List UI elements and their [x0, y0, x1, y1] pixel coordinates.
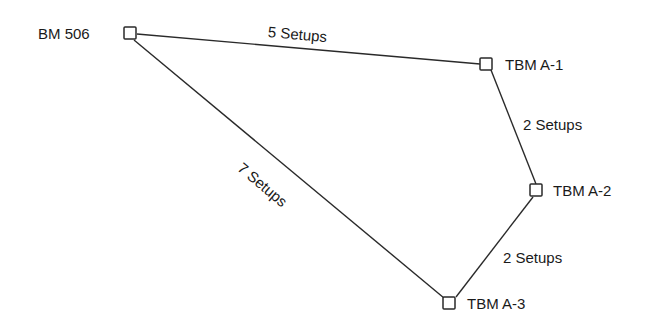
edge-tbma3-bm506 — [134, 40, 444, 298]
node-tbma3-marker — [443, 297, 455, 309]
diagram-canvas — [0, 0, 661, 330]
node-label-bm506: BM 506 — [38, 26, 90, 41]
node-bm506-marker — [124, 27, 136, 39]
node-label-tbma1: TBM A-1 — [505, 57, 563, 72]
edge-label-tbma2-tbma3: 2 Setups — [503, 250, 562, 265]
node-tbma2-marker — [530, 184, 542, 196]
edge-label-tbma1-tbma2: 2 Setups — [523, 117, 582, 132]
node-label-tbma3: TBM A-3 — [467, 296, 525, 311]
node-label-tbma2: TBM A-2 — [553, 183, 611, 198]
node-tbma1-marker — [480, 58, 492, 70]
edge-tbma2-tbma3 — [456, 197, 533, 297]
